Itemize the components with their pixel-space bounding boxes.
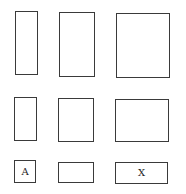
- rect-r2c2: [58, 98, 94, 142]
- rect-r3c3-labeled-x: X: [115, 162, 168, 184]
- rect-r1c1: [15, 11, 38, 75]
- rect-r3c2: [58, 162, 94, 183]
- rect-r2c3: [115, 99, 169, 142]
- rect-label-a: A: [21, 167, 28, 177]
- rect-r2c1: [14, 97, 37, 141]
- rect-label-x: X: [138, 168, 145, 178]
- rect-r1c2: [59, 12, 95, 77]
- diagram-canvas: A X: [0, 0, 186, 194]
- rect-r3c1-labeled-a: A: [14, 160, 36, 183]
- rect-r1c3: [116, 13, 170, 78]
